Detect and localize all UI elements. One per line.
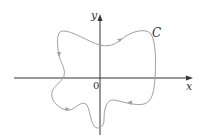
y-axis-arrow-icon — [98, 14, 103, 21]
curve-c — [52, 31, 156, 128]
direction-arrow-icon — [57, 52, 61, 57]
origin-label: 0 — [93, 81, 99, 91]
diagram-canvas — [0, 0, 202, 140]
y-axis-label: y — [91, 10, 97, 21]
x-axis-label: x — [186, 81, 192, 92]
direction-arrow-icon — [127, 101, 132, 106]
curve-label: C — [152, 27, 161, 39]
